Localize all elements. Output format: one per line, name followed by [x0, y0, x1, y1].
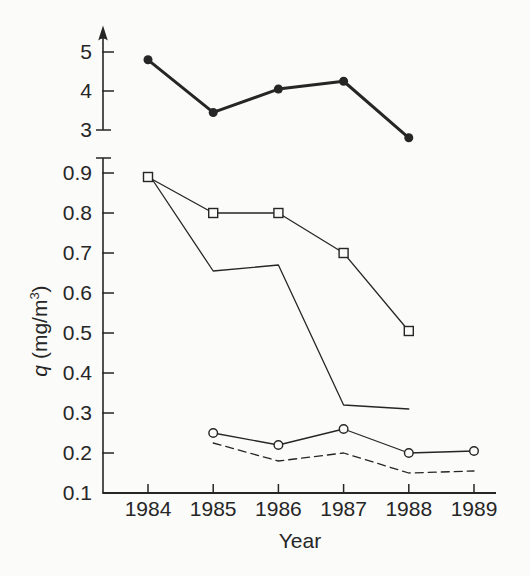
series-line-bold-filled-circles: [148, 60, 409, 138]
upper-y-tick-label: 3: [80, 118, 92, 141]
lower-y-tick-label: 0.4: [63, 361, 93, 384]
y-axis-title: q (mg/m3): [27, 261, 53, 401]
lower-y-tick-label: 0.2: [63, 441, 92, 464]
marker-filled-circle: [274, 85, 283, 94]
marker-open-square: [144, 173, 153, 182]
line-chart: 5430.90.80.70.60.50.40.30.20.11984198519…: [0, 0, 530, 576]
marker-filled-circle: [144, 55, 153, 64]
lower-y-tick-label: 0.1: [63, 481, 92, 504]
x-tick-label: 1986: [255, 497, 302, 520]
marker-filled-circle: [404, 133, 413, 142]
x-tick-label: 1987: [320, 497, 367, 520]
x-tick-label: 1988: [385, 497, 432, 520]
marker-open-square: [339, 249, 348, 258]
marker-open-circle: [405, 449, 414, 458]
marker-open-circle: [470, 447, 479, 456]
marker-open-square: [209, 209, 218, 218]
lower-y-tick-label: 0.7: [63, 241, 92, 264]
x-tick-label: 1985: [190, 497, 237, 520]
x-tick-label: 1989: [451, 497, 498, 520]
series-line-dashed-unmarked: [213, 443, 474, 473]
x-axis-title: Year: [230, 529, 370, 553]
upper-y-tick-label: 4: [80, 79, 92, 102]
y-axis-symbol: q: [28, 365, 51, 377]
upper-y-tick-label: 5: [80, 40, 92, 63]
lower-y-tick-label: 0.8: [63, 201, 92, 224]
lower-y-tick-label: 0.5: [63, 321, 92, 344]
marker-open-square: [404, 327, 413, 336]
marker-open-circle: [209, 429, 218, 438]
marker-open-square: [274, 209, 283, 218]
upper-y-axis-arrowhead: [98, 25, 108, 40]
y-axis-unit: (mg/m: [28, 300, 51, 365]
series-line-open-squares: [148, 177, 409, 331]
y-axis-unit-superscript: 3: [27, 292, 42, 299]
marker-open-circle: [339, 425, 348, 434]
lower-y-tick-label: 0.6: [63, 281, 92, 304]
marker-open-circle: [274, 441, 283, 450]
marker-filled-circle: [339, 77, 348, 86]
lower-y-tick-label: 0.3: [63, 401, 92, 424]
y-axis-unit-close: ): [28, 285, 51, 292]
x-tick-label: 1984: [125, 497, 172, 520]
lower-y-tick-label: 0.9: [63, 161, 92, 184]
marker-filled-circle: [209, 108, 218, 117]
figure: 5430.90.80.70.60.50.40.30.20.11984198519…: [0, 0, 530, 576]
